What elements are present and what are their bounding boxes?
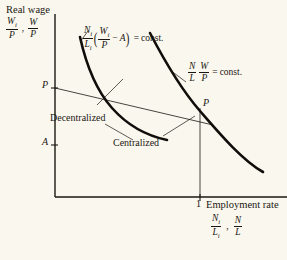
eq-centralized-second-fraction: W P xyxy=(199,62,209,83)
x-variable-ni-over-li: Ni Li xyxy=(211,214,221,239)
x-axis-caption: Employment rate xyxy=(206,199,279,210)
eq-centralized-value: const. xyxy=(220,68,242,78)
x-tick-label-one: 1 xyxy=(196,199,201,210)
y-tick-label-A: A xyxy=(42,137,48,148)
eq-centralized-equals: = xyxy=(212,68,217,78)
close-paren: ) xyxy=(126,31,130,47)
eq-decentralized-term-a: A xyxy=(120,34,126,44)
open-paren: ( xyxy=(94,31,98,47)
eq-decentralized-lead-fraction: Ni Li xyxy=(83,26,93,51)
decentralized-curve xyxy=(80,37,167,140)
y-axis-variables: Wi P , W P xyxy=(6,17,38,40)
eq-decentralized-equals: = xyxy=(134,34,139,44)
equation-decentralized: Ni Li ( Wi P − A ) = const. xyxy=(83,26,163,51)
y-tick-label-P: P xyxy=(42,80,48,91)
equation-centralized: N L W P = const. xyxy=(188,62,242,83)
eq-decentralized-minus: − xyxy=(112,34,117,44)
leader-line-centralized xyxy=(163,116,195,136)
economics-figure: Real wage Wi P , W P Employment rate Ni … xyxy=(0,0,287,260)
x-variable-separator: , xyxy=(226,222,228,232)
y-variable-separator: , xyxy=(22,24,24,34)
eq-decentralized-inner-fraction: Wi P xyxy=(98,27,110,50)
eq-centralized-first-fraction: N L xyxy=(188,62,196,83)
y-variable-w-over-p: W P xyxy=(28,18,38,39)
eq-decentralized-value: const. xyxy=(141,34,163,44)
y-variable-wi-over-p: Wi P xyxy=(6,17,18,40)
curve-label-decentralized: Decentralized xyxy=(50,113,106,124)
x-axis-variables: Ni Li , N L xyxy=(211,214,242,239)
y-axis-caption: Real wage xyxy=(6,4,50,15)
curve-label-centralized: Centralized xyxy=(113,138,159,149)
x-variable-n-over-l: N L xyxy=(234,216,242,237)
equilibrium-point-label: P xyxy=(203,98,209,109)
